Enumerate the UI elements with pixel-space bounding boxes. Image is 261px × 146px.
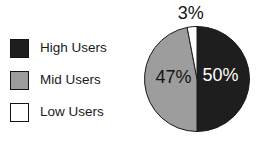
- legend-item-high-users: High Users: [10, 38, 107, 58]
- legend: High Users Mid Users Low Users: [10, 38, 107, 122]
- legend-label-low-users: Low Users: [40, 102, 104, 122]
- slice-value-label-mid-users: 47%: [155, 67, 191, 87]
- pie-chart-figure: High Users Mid Users Low Users 50%47%3%: [0, 0, 261, 146]
- legend-swatch-mid-users-icon: [10, 71, 29, 90]
- legend-label-mid-users: Mid Users: [40, 70, 101, 90]
- legend-swatch-high-users-icon: [10, 39, 29, 58]
- legend-item-low-users: Low Users: [10, 102, 107, 122]
- legend-swatch-low-users-icon: [10, 103, 29, 122]
- legend-label-high-users: High Users: [40, 38, 107, 58]
- slice-value-label-high-users: 50%: [203, 65, 239, 85]
- legend-item-mid-users: Mid Users: [10, 70, 107, 90]
- pie-chart: 50%47%3%: [130, 0, 261, 146]
- slice-value-label-low-users: 3%: [178, 3, 204, 23]
